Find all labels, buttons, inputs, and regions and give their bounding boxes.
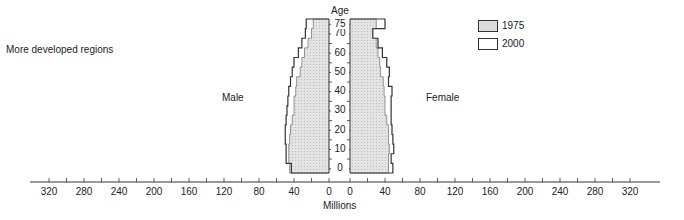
x-ticks: [49, 178, 630, 182]
bar: [294, 106, 329, 116]
age-tick-label: 70: [331, 27, 349, 38]
male-label: Male: [222, 92, 244, 103]
age-tick-label: 75: [331, 18, 349, 29]
bar: [350, 19, 376, 29]
x-tick-label: 80: [249, 186, 269, 197]
bar: [350, 86, 384, 96]
x-tick-label: 160: [480, 186, 500, 197]
bar: [350, 38, 376, 48]
x-tick-label: 280: [585, 186, 605, 197]
x-tick-label: 160: [179, 186, 199, 197]
age-tick-label: 0: [331, 162, 349, 173]
bar: [289, 144, 329, 154]
bar: [350, 48, 378, 58]
female-label: Female: [426, 92, 459, 103]
x-tick-label: 320: [39, 186, 59, 197]
x-tick-label: 240: [109, 186, 129, 197]
x-tick-label: 0: [319, 186, 339, 197]
bar: [350, 115, 387, 125]
bar: [297, 77, 329, 87]
bar: [350, 67, 381, 77]
age-tick-label: 30: [331, 104, 349, 115]
chart-title: More developed regions: [6, 44, 113, 55]
legend-label-1975: 1975: [502, 20, 524, 31]
x-tick-label: 120: [214, 186, 234, 197]
x-tick-label: 280: [74, 186, 94, 197]
bar: [290, 163, 329, 173]
legend-swatch-2000: [478, 38, 498, 50]
legend-label-2000: 2000: [502, 38, 524, 49]
bar: [350, 58, 380, 68]
bar: [350, 77, 383, 87]
legend-swatch-1975: [478, 20, 498, 32]
bar: [302, 58, 329, 68]
bar: [350, 154, 389, 164]
x-tick-label: 0: [340, 186, 360, 197]
x-tick-label: 320: [620, 186, 640, 197]
bar: [350, 106, 385, 116]
x-axis-label: Millions: [323, 200, 356, 211]
age-tick-label: 40: [331, 85, 349, 96]
age-tick-label: 10: [331, 143, 349, 154]
bar: [292, 115, 329, 125]
bar: [350, 29, 373, 39]
bar: [350, 144, 389, 154]
bar: [308, 38, 329, 48]
age-tick-label: 60: [331, 47, 349, 58]
x-tick-label: 40: [284, 186, 304, 197]
age-tick-label: 20: [331, 124, 349, 135]
bar: [350, 96, 385, 106]
bar: [313, 19, 329, 29]
x-tick-label: 200: [144, 186, 164, 197]
x-tick-label: 200: [515, 186, 535, 197]
bar: [312, 29, 330, 39]
age-tick-label: 50: [331, 66, 349, 77]
bar: [350, 125, 389, 135]
bar: [300, 67, 329, 77]
age-axis-label: Age: [331, 5, 349, 16]
bar: [290, 135, 329, 145]
bar: [294, 96, 329, 106]
female-1975-bars: [350, 19, 389, 173]
x-tick-label: 40: [375, 186, 395, 197]
bar: [350, 163, 389, 173]
x-tick-label: 120: [445, 186, 465, 197]
x-tick-label: 80: [410, 186, 430, 197]
bar: [291, 125, 330, 135]
x-tick-label: 240: [550, 186, 570, 197]
bar: [305, 48, 330, 58]
bar: [350, 135, 389, 145]
bar: [289, 154, 329, 164]
bar: [296, 86, 329, 96]
